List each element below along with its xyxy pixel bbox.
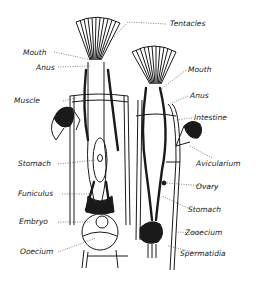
label-ovary: Ovary <box>196 183 218 191</box>
left-tentacle-crown <box>76 17 120 60</box>
label-stomach-left: Stomach <box>18 160 51 168</box>
left-zooid-body <box>70 62 130 225</box>
label-mouth-left: Mouth <box>23 49 47 57</box>
label-muscle: Muscle <box>14 97 40 105</box>
label-funiculus: Funiculus <box>18 190 53 198</box>
label-spermatidia: Spermatidia <box>180 250 226 258</box>
label-stomach-right: Stomach <box>188 206 221 214</box>
bryozoan-diagram: Tentacles Mouth Anus Muscle Mouth Anus I… <box>0 0 256 284</box>
right-tentacle-crown <box>132 46 176 84</box>
label-embryo: Embryo <box>19 218 48 226</box>
label-anus-right: Anus <box>190 92 209 100</box>
label-ooecium: Ooecium <box>20 248 53 256</box>
label-mouth-right: Mouth <box>188 66 212 74</box>
ooecium-chamber <box>82 214 128 268</box>
label-anus-left: Anus <box>36 64 55 72</box>
label-tentacles: Tentacles <box>170 20 205 28</box>
label-avicularium: Avicularium <box>196 160 240 168</box>
label-zooecium: Zooecium <box>185 229 222 237</box>
left-avicularium <box>51 107 80 140</box>
right-zooid-body <box>136 88 180 270</box>
zooid-illustration <box>0 0 256 284</box>
label-intestine: Intestine <box>194 114 227 122</box>
